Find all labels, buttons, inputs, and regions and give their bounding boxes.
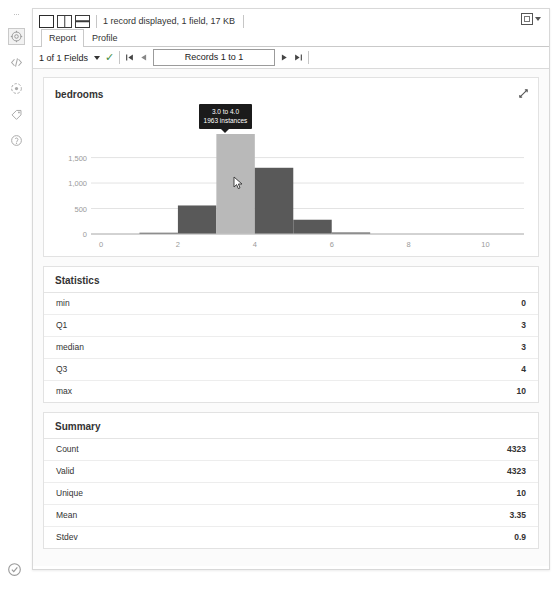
statistic-value: 10 — [517, 386, 526, 396]
tab-report[interactable]: Report — [41, 29, 84, 47]
svg-text:10: 10 — [481, 240, 489, 249]
tooltip-instances: 1963 instances — [204, 116, 248, 125]
table-row: max10 — [44, 380, 538, 402]
summary-value: 4323 — [507, 444, 526, 454]
statistic-value: 3 — [521, 320, 526, 330]
records-range-label[interactable]: Records 1 to 1 — [153, 49, 275, 66]
summary-value: 10 — [517, 488, 526, 498]
statistics-rows: min0Q13median3Q34max10 — [44, 292, 538, 402]
summary-value: 4323 — [507, 466, 526, 476]
apply-check-icon[interactable]: ✓ — [105, 52, 114, 63]
summary-key: Valid — [56, 466, 74, 476]
next-record-icon[interactable] — [280, 53, 289, 62]
chart-card: bedrooms 05001,0001,5000246810 3.0 to 4.… — [43, 77, 539, 257]
statistic-key: max — [56, 386, 72, 396]
nav-divider-2 — [308, 51, 309, 64]
first-record-icon[interactable] — [125, 53, 134, 62]
table-row: Q13 — [44, 314, 538, 336]
statistic-value: 3 — [521, 342, 526, 352]
chart-card-header: bedrooms — [44, 78, 538, 108]
statistic-key: Q1 — [56, 320, 67, 330]
vertical-split-view-button[interactable] — [57, 15, 72, 28]
single-pane-view-button[interactable] — [39, 15, 54, 28]
statistics-title: Statistics — [44, 267, 538, 292]
nav-divider — [119, 51, 120, 64]
table-row: Stdev0.9 — [44, 526, 538, 548]
summary-value: 3.35 — [509, 510, 526, 520]
svg-text:6: 6 — [330, 240, 334, 249]
chart-tooltip: 3.0 to 4.0 1963 instances — [199, 104, 253, 129]
expand-diagonal-icon[interactable] — [518, 85, 529, 103]
summary-value: 0.9 — [514, 532, 526, 542]
statistics-card: Statistics min0Q13median3Q34max10 — [43, 266, 539, 403]
summary-title: Summary — [44, 413, 538, 438]
settings-gear-icon[interactable] — [8, 28, 25, 45]
statistic-value: 4 — [521, 364, 526, 374]
record-status-text: 1 record displayed, 1 field, 17 KB — [103, 16, 235, 26]
chevron-down-icon[interactable] — [94, 56, 100, 60]
tag-icon[interactable] — [8, 106, 25, 123]
help-icon[interactable] — [8, 132, 25, 149]
tab-bar: Report Profile — [33, 31, 549, 47]
horizontal-split-view-button[interactable] — [75, 15, 90, 28]
main-panel: 1 record displayed, 1 field, 17 KB Repor… — [32, 8, 550, 570]
table-row: Mean3.35 — [44, 504, 538, 526]
summary-rows: Count4323Valid4323Unique10Mean3.35Stdev0… — [44, 438, 538, 548]
report-body: bedrooms 05001,0001,5000246810 3.0 to 4.… — [33, 69, 549, 566]
panel-layout-button[interactable] — [521, 13, 541, 25]
statistic-key: min — [56, 298, 70, 308]
record-navigation-bar: 1 of 1 Fields ✓ Records 1 to 1 — [33, 47, 549, 69]
statistic-key: Q3 — [56, 364, 67, 374]
svg-text:1,000: 1,000 — [68, 179, 87, 188]
status-check-icon[interactable] — [7, 562, 24, 579]
summary-key: Stdev — [56, 532, 78, 542]
table-row: median3 — [44, 336, 538, 358]
application-window: 1 record displayed, 1 field, 17 KB Repor… — [0, 0, 558, 591]
rail-drag-handle[interactable] — [11, 14, 21, 18]
tab-profile[interactable]: Profile — [84, 29, 126, 46]
statistic-value: 0 — [521, 298, 526, 308]
table-row: Valid4323 — [44, 460, 538, 482]
svg-text:0: 0 — [99, 240, 103, 249]
mouse-cursor-icon — [233, 176, 244, 194]
top-toolbar: 1 record displayed, 1 field, 17 KB — [33, 9, 549, 31]
code-icon[interactable] — [8, 54, 25, 71]
view-mode-buttons — [39, 15, 90, 28]
svg-text:8: 8 — [407, 240, 411, 249]
svg-text:500: 500 — [74, 205, 87, 214]
histogram-chart[interactable]: 05001,0001,5000246810 3.0 to 4.0 1963 in… — [44, 108, 538, 256]
last-record-icon[interactable] — [294, 53, 303, 62]
statistic-key: median — [56, 342, 84, 352]
panel-layout-icon — [521, 13, 533, 25]
table-row: min0 — [44, 292, 538, 314]
svg-text:0: 0 — [83, 230, 87, 239]
left-icon-rail — [4, 8, 28, 568]
toolbar-divider — [96, 15, 97, 28]
tooltip-range: 3.0 to 4.0 — [204, 107, 248, 116]
table-row: Count4323 — [44, 438, 538, 460]
fields-selector-label[interactable]: 1 of 1 Fields — [39, 53, 88, 63]
chart-title: bedrooms — [55, 89, 103, 100]
svg-text:4: 4 — [253, 240, 257, 249]
toolbar-divider-2 — [243, 15, 244, 28]
table-row: Q34 — [44, 358, 538, 380]
chevron-down-icon — [535, 17, 541, 21]
summary-key: Count — [56, 444, 79, 454]
histogram-svg: 05001,0001,5000246810 — [44, 108, 540, 256]
summary-key: Mean — [56, 510, 77, 520]
target-icon[interactable] — [8, 80, 25, 97]
svg-text:2: 2 — [176, 240, 180, 249]
svg-text:1,500: 1,500 — [68, 154, 87, 163]
table-row: Unique10 — [44, 482, 538, 504]
previous-record-icon[interactable] — [139, 53, 148, 62]
summary-key: Unique — [56, 488, 83, 498]
summary-card: Summary Count4323Valid4323Unique10Mean3.… — [43, 412, 539, 549]
